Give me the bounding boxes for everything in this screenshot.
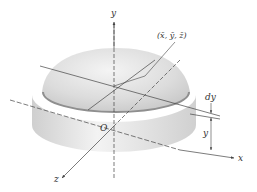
centroid-label: (x̄, ȳ, z̄)	[157, 31, 187, 40]
y-axis-label: y	[110, 8, 117, 18]
z-axis-label: z	[53, 174, 59, 184]
hemisphere-dome	[42, 48, 190, 112]
dy-label: dy	[205, 92, 217, 102]
x-axis-label: x	[238, 153, 243, 163]
hemisphere-diagram: y x z O (x̄, ȳ, z̄) dy y	[0, 0, 257, 192]
origin-label: O	[100, 123, 108, 133]
y-height-label: y	[202, 128, 209, 138]
x-axis-front	[180, 150, 234, 158]
